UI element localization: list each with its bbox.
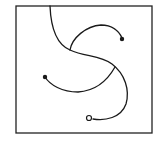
upper-branch-curve <box>70 25 122 50</box>
main-s-end-loop-icon <box>87 116 92 121</box>
upper-branch-end-dot-icon <box>120 37 123 40</box>
frame-border <box>16 6 152 133</box>
lower-branch-end-dot-icon <box>43 75 46 78</box>
lower-branch-curve <box>45 67 115 92</box>
diagram-canvas <box>0 0 164 143</box>
main-s-curve <box>50 6 127 120</box>
